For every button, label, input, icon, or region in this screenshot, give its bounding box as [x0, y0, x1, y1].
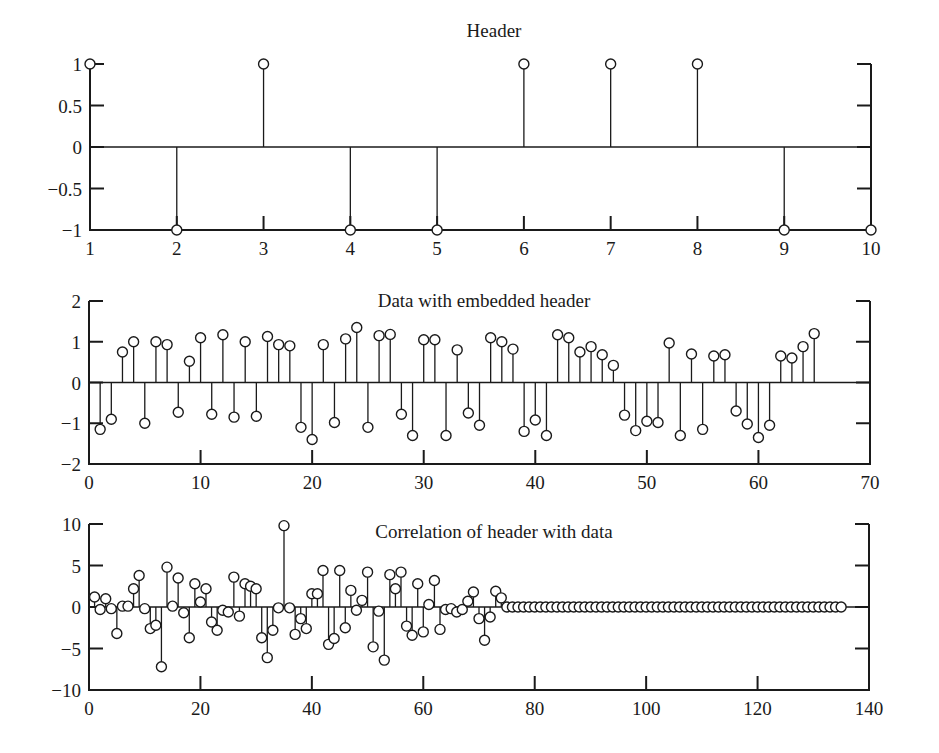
x-tick-label: 70 — [861, 472, 880, 493]
stem-marker — [251, 584, 261, 594]
y-tick-label: −1 — [62, 220, 82, 241]
stem-marker — [631, 426, 641, 436]
stem-marker — [274, 340, 284, 350]
stem-marker — [106, 604, 116, 614]
stem-marker — [190, 579, 200, 589]
stem-marker — [385, 329, 395, 339]
stem-marker — [259, 59, 269, 69]
stem-marker — [368, 642, 378, 652]
header-stem-plot: 10.50−0.5−112345678910Header — [48, 20, 881, 259]
stem-marker — [134, 570, 144, 580]
stem-marker — [597, 350, 607, 360]
stem-marker — [586, 342, 596, 352]
stem-marker — [765, 420, 775, 430]
stem-marker — [172, 225, 182, 235]
stem-marker — [279, 521, 289, 531]
stem-marker — [106, 414, 116, 424]
stem-marker — [162, 340, 172, 350]
stem-marker — [432, 225, 442, 235]
stem-marker — [497, 337, 507, 347]
stem-marker — [218, 330, 228, 340]
stem-marker — [530, 415, 540, 425]
stem-marker — [441, 430, 451, 440]
x-tick-label: 4 — [346, 238, 356, 259]
stem-marker — [140, 418, 150, 428]
stem-marker — [345, 225, 355, 235]
x-tick-label: 8 — [693, 238, 703, 259]
stem-marker — [207, 409, 217, 419]
stem-marker — [519, 59, 529, 69]
y-tick-label: 0.5 — [58, 96, 82, 117]
stem-marker — [196, 333, 206, 343]
stem-marker — [229, 572, 239, 582]
stem-marker — [240, 337, 250, 347]
stem-marker — [452, 345, 462, 355]
x-tick-label: 5 — [432, 238, 442, 259]
x-tick-label: 10 — [862, 238, 881, 259]
stem-marker — [720, 350, 730, 360]
x-tick-label: 100 — [632, 698, 661, 719]
stem-marker — [541, 430, 551, 440]
stem-plot-figure: 10.50−0.5−112345678910Header 210−1−20102… — [0, 0, 939, 753]
stem-marker — [486, 333, 496, 343]
stem-marker — [475, 420, 485, 430]
x-tick-label: 40 — [302, 698, 321, 719]
stem-marker — [201, 584, 211, 594]
x-tick-label: 50 — [637, 472, 656, 493]
stem-marker — [112, 629, 122, 639]
x-tick-label: 6 — [519, 238, 529, 259]
x-tick-label: 20 — [191, 698, 210, 719]
stem-marker — [234, 611, 244, 621]
stem-marker — [620, 410, 630, 420]
stem-marker — [312, 589, 322, 599]
y-tick-label: 0 — [72, 373, 82, 394]
x-tick-label: 120 — [743, 698, 772, 719]
stem-marker — [787, 353, 797, 363]
stem-marker — [151, 337, 161, 347]
x-tick-label: 10 — [191, 472, 210, 493]
stem-marker — [341, 334, 351, 344]
stem-marker — [184, 356, 194, 366]
stem-marker — [156, 662, 166, 672]
stem-marker — [363, 567, 373, 577]
stem-marker — [686, 349, 696, 359]
stem-marker — [101, 594, 111, 604]
y-tick-label: −5 — [61, 639, 81, 660]
y-tick-label: −2 — [61, 454, 81, 475]
stem-marker — [285, 341, 295, 351]
stem-marker — [95, 604, 105, 614]
stem-marker — [709, 351, 719, 361]
stem-marker — [296, 614, 306, 624]
stem-marker — [301, 624, 311, 634]
x-tick-label: 7 — [606, 238, 616, 259]
stem-marker — [836, 602, 846, 612]
stem-marker — [379, 655, 389, 665]
stem-marker — [307, 435, 317, 445]
stem-marker — [85, 59, 95, 69]
stem-marker — [608, 360, 618, 370]
stem-marker — [117, 347, 127, 357]
stem-marker — [346, 585, 356, 595]
x-tick-label: 80 — [525, 698, 544, 719]
stem-marker — [776, 351, 786, 361]
stem-marker — [675, 430, 685, 440]
stem-marker — [485, 612, 495, 622]
stem-marker — [419, 335, 429, 345]
stem-marker — [418, 627, 428, 637]
stem-marker — [357, 595, 367, 605]
x-tick-label: 0 — [84, 698, 94, 719]
stem-marker — [129, 337, 139, 347]
y-tick-label: 5 — [72, 556, 82, 577]
stem-marker — [363, 422, 373, 432]
y-tick-label: 1 — [73, 54, 83, 75]
y-tick-label: −0.5 — [48, 179, 82, 200]
y-tick-label: 1 — [72, 332, 82, 353]
stem-marker — [195, 597, 205, 607]
stem-marker — [296, 422, 306, 432]
data-with-embedded-header-stem-plot: 210−1−2010203040506070Data with embedded… — [61, 290, 880, 493]
x-tick-label: 1 — [85, 238, 95, 259]
x-tick-label: 30 — [414, 472, 433, 493]
chart-title: Header — [467, 20, 523, 41]
y-tick-label: 10 — [62, 514, 81, 535]
stem-marker — [268, 625, 278, 635]
